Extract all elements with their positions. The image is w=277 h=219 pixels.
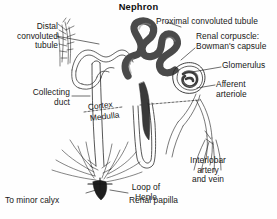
label-proximal-convoluted-tubule: Proximal convoluted tubule xyxy=(156,17,258,27)
label-distal-convoluted-tubule: Distal convoluted tubule xyxy=(6,22,58,51)
label-afferent-arteriole: Afferent arteriole xyxy=(216,80,247,99)
proximal-convoluted-tubule-shape xyxy=(125,21,177,76)
papillary-ducts-shape xyxy=(52,140,142,182)
label-loop-of-henle: Loop of Henle xyxy=(118,183,174,202)
thick-descending-limb-shape xyxy=(139,82,150,140)
peritubular-capillaries-icon xyxy=(58,18,75,66)
label-glomerulus: Glomerulus xyxy=(222,61,265,71)
leader-to-minor-calyx xyxy=(86,190,96,193)
label-interlobar-vessels: Interlobar artery and vein xyxy=(178,156,238,185)
leader-distal-convoluted-tubule xyxy=(56,36,99,44)
label-renal-corpuscle: Renal corpuscle: Bowman's capsule xyxy=(196,32,266,51)
renal-corpuscle-shape xyxy=(173,63,205,94)
label-to-minor-calyx: To minor calyx xyxy=(5,196,59,206)
leader-renal-corpuscle xyxy=(181,48,195,60)
label-collecting-duct: Collecting duct xyxy=(4,88,70,107)
nephron-diagram: Nephron xyxy=(0,0,277,219)
